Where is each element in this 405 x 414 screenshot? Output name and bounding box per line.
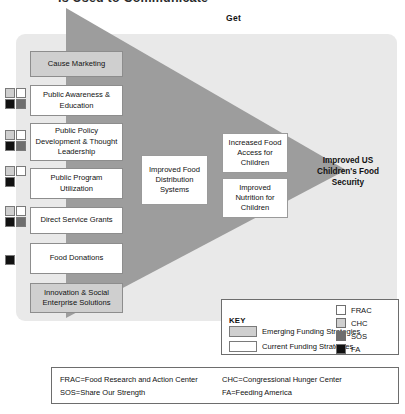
final-goal-label: Improved US Children's Food Security (305, 155, 391, 188)
key-legend: KEY Emerging Funding Strategies Current … (221, 299, 399, 355)
funder-swatch-fa (5, 255, 15, 265)
strategy-box: Cause Marketing (30, 51, 123, 77)
organization-legend-item: CHC (336, 317, 392, 329)
organization-abbr-label: SOS (351, 332, 367, 341)
diagram-canvas: is Used to Communicate Do Get Cause Mark… (0, 0, 405, 414)
strategy-box: Direct Service Grants (30, 207, 123, 234)
organization-legend-item: FA (336, 343, 392, 355)
organization-swatch-fa (336, 344, 346, 354)
strategy-box-label: Food Donations (50, 253, 104, 264)
strategy-box: Public Awareness & Education (30, 85, 123, 116)
key-chip-current (229, 341, 257, 352)
outcome-box-label: Increased Food Access for Children (226, 138, 284, 169)
funder-swatch-chc (5, 130, 15, 140)
abbreviation-footnote-box: FRAC=Food Research and Action Center SOS… (51, 367, 399, 404)
footnote-frac: FRAC=Food Research and Action Center (60, 374, 198, 386)
footnote-sos: SOS=Share Our Strength (60, 387, 145, 399)
organization-abbr-label: FRAC (351, 306, 372, 315)
cut-off-headline: is Used to Communicate (58, 0, 268, 5)
funder-swatch-chc (5, 88, 15, 98)
outcome-box-label: Improved Nutrition for Children (226, 183, 284, 214)
funder-swatch-group (5, 206, 29, 227)
column-caption-get: Get (226, 13, 241, 23)
strategy-box-label: Public Awareness & Education (34, 90, 119, 111)
funder-swatch-sos (16, 217, 26, 227)
organization-swatch-sos (336, 331, 346, 341)
strategy-box: Food Donations (30, 243, 123, 274)
strategy-box-label: Direct Service Grants (40, 215, 112, 226)
funder-swatch-chc (5, 166, 15, 176)
outcome-box-label: Improved Food Distribution Systems (145, 165, 204, 196)
funder-swatch-fa (5, 217, 15, 227)
funder-swatch-fa (5, 141, 15, 151)
footnote-fa: FA=Feeding America (222, 387, 292, 399)
strategy-box: Public Policy Development & Thought Lead… (30, 123, 123, 161)
funder-swatch-fa (5, 177, 15, 187)
strategy-box: Innovation & Social Enterprise Solutions (30, 283, 123, 313)
funder-swatch-chc (5, 206, 15, 216)
organization-swatch-frac (336, 305, 346, 315)
organization-legend-item: FRAC (336, 304, 392, 316)
outcome-box: Increased Food Access for Children (222, 133, 288, 173)
funder-swatch-empty (16, 177, 26, 187)
organization-swatch-chc (336, 318, 346, 328)
column-caption-do: Do (70, 18, 82, 28)
funder-swatch-sos (16, 141, 26, 151)
strategy-box-label: Cause Marketing (48, 59, 105, 70)
funder-swatch-group (5, 166, 29, 187)
key-title: KEY (229, 316, 246, 325)
funder-swatch-frac (16, 130, 26, 140)
outcome-box: Improved Food Distribution Systems (141, 155, 208, 205)
strategy-box-label: Public Policy Development & Thought Lead… (34, 126, 119, 158)
organization-legend-item: SOS (336, 330, 392, 342)
strategy-box: Public Program Utilization (30, 168, 123, 199)
funder-swatch-group (5, 130, 29, 151)
funder-swatch-frac (16, 206, 26, 216)
organization-legend-list: FRACCHCSOSFA (336, 304, 392, 356)
funder-swatch-group (5, 88, 29, 109)
funder-swatch-fa (5, 99, 15, 109)
funder-swatch-group (5, 255, 29, 265)
strategy-box-label: Innovation & Social Enterprise Solutions (34, 288, 119, 309)
footnote-chc: CHC=Congressional Hunger Center (222, 374, 342, 386)
funder-swatch-frac (16, 88, 26, 98)
organization-abbr-label: CHC (351, 319, 367, 328)
funder-swatch-sos (16, 99, 26, 109)
strategy-box-label: Public Program Utilization (34, 173, 119, 194)
key-chip-emerging (229, 326, 257, 337)
outcome-box: Improved Nutrition for Children (222, 178, 288, 218)
organization-abbr-label: FA (351, 345, 360, 354)
key-row-current: Current Funding Strategies (229, 341, 353, 352)
funder-swatch-frac (16, 166, 26, 176)
